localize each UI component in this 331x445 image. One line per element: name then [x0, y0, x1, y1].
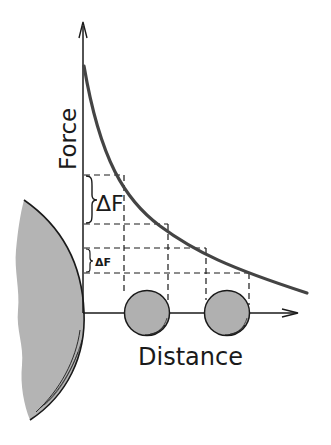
x-axis — [83, 309, 298, 317]
small-ball-2 — [205, 291, 250, 336]
small-delta-label: ΔF — [95, 256, 111, 269]
small-ball-1 — [125, 291, 170, 336]
force-distance-diagram: ΔF ΔF Force Distance — [0, 0, 331, 445]
x-axis-label: Distance — [138, 343, 243, 371]
y-axis-label: Force — [55, 108, 81, 170]
force-curve — [84, 66, 307, 293]
large-body — [16, 200, 85, 420]
large-delta-label: ΔF — [96, 191, 124, 216]
small-delta-brace — [86, 249, 93, 272]
